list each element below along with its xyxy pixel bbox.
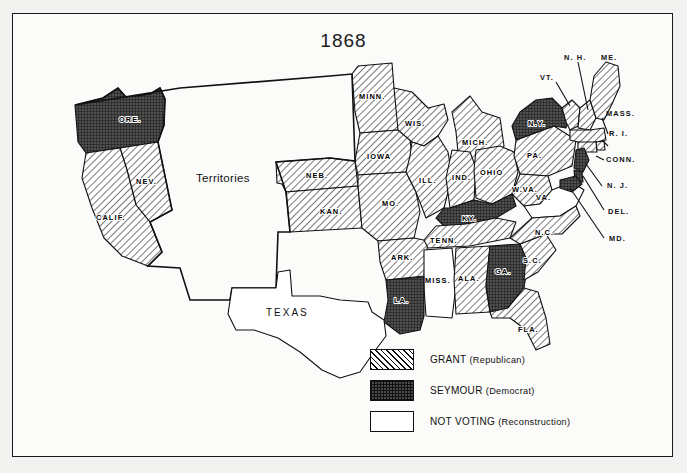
state-label-ore: ORE. [119,115,141,124]
state-label-nc: N.C. [535,228,554,237]
state-label-la: LA. [394,296,409,305]
state-label-ill: ILL. [419,176,437,185]
leader-line-vt [556,82,570,106]
state-label-ga: GA. [495,267,511,276]
leader-line-nj [586,164,602,186]
legend-name-grant: GRANT [430,354,466,365]
legend-swatch-seymour [370,380,414,401]
state-label-va: VA. [536,193,551,202]
legend-label-seymour: SEYMOUR (Democrat) [430,385,535,396]
us-electoral-map: ORE. NEV. CALIF. MINN. WIS. IOWA MICH. N… [0,0,687,473]
state-label-ark: ARK. [391,253,413,262]
state-label-pa: PA. [527,151,542,160]
state-label-miss: MISS. [425,276,451,285]
outer-label-ri: R. I. [609,129,628,138]
map-page: 1868 [0,0,687,473]
texas-label: TEXAS [266,307,309,318]
state-label-ind: IND. [452,173,471,182]
legend-swatch-notvoting [370,411,414,432]
state-label-minn: MINN. [359,92,385,101]
outer-label-conn: CONN. [606,155,635,164]
state-la [384,277,424,334]
state-label-nev: NEV. [136,177,157,186]
outer-label-del: DEL. [608,207,629,216]
state-label-neb: NEB. [306,171,328,180]
state-label-fla: FLA. [518,325,539,334]
legend-swatch-grant [370,349,414,370]
leader-line-del [583,176,604,210]
state-texas [228,270,386,378]
state-label-ala: ALA. [458,274,480,283]
legend-item-notvoting: NOT VOTING (Reconstruction) [370,406,570,437]
outer-label-vt: VT. [540,73,554,82]
legend-item-seymour: SEYMOUR (Democrat) [370,375,570,406]
state-label-wva: W.VA. [512,185,538,194]
map-legend: GRANT (Republican) SEYMOUR (Democrat) NO… [370,344,570,437]
leader-line-conn [596,156,604,160]
state-label-ohio: OHIO [480,168,503,177]
legend-item-grant: GRANT (Republican) [370,344,570,375]
state-label-kan: KAN. [320,207,342,216]
state-label-mich: MICH. [462,138,488,147]
state-label-sc: S.C. [523,256,542,265]
outer-label-nh: N. H. [564,53,586,62]
state-label-mo: MO. [382,199,399,208]
state-label-calif: CALIF. [96,213,126,222]
legend-qualifier-seymour: (Democrat) [486,386,535,396]
leader-line-nh [578,62,588,110]
state-label-tenn: TENN. [430,236,458,245]
outer-label-md: MD. [609,234,626,243]
state-label-iowa: IOWA [367,152,391,161]
outer-label-mass: MASS. [606,109,635,118]
outer-label-me: ME. [601,53,617,62]
legend-label-notvoting: NOT VOTING (Reconstruction) [430,416,570,427]
territories-label: Territories [196,172,250,184]
state-label-ky: KY. [462,214,477,223]
legend-name-seymour: SEYMOUR [430,385,483,396]
legend-name-notvoting: NOT VOTING [430,416,495,427]
legend-qualifier-notvoting: (Reconstruction) [498,417,570,427]
outer-label-nj: N. J. [607,181,628,190]
legend-qualifier-grant: (Republican) [469,355,525,365]
legend-label-grant: GRANT (Republican) [430,354,525,365]
state-label-ny: N.Y. [528,119,546,128]
state-label-wis: WIS. [405,119,425,128]
